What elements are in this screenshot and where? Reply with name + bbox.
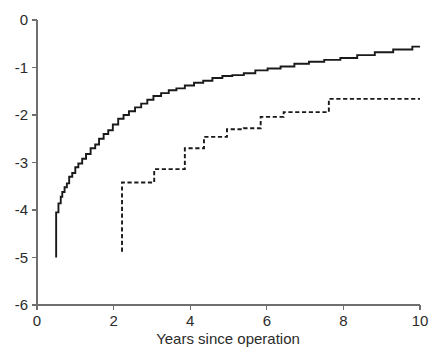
chart-figure: 0-1-2-3-4-5-6 0246810 Years since operat… (0, 0, 441, 353)
x-tick-label: 0 (33, 312, 41, 329)
chart-canvas: 0-1-2-3-4-5-6 0246810 Years since operat… (0, 0, 441, 353)
x-tick-label: 10 (412, 312, 429, 329)
data-series-layer (56, 47, 420, 258)
x-tick-label: 8 (339, 312, 347, 329)
series-solid-curve (56, 47, 420, 258)
x-tick-label: 2 (109, 312, 117, 329)
y-tick-label: -2 (15, 106, 28, 123)
series-dashed-curve (122, 99, 420, 252)
x-tick-label: 4 (186, 312, 194, 329)
y-tick-label: -3 (15, 154, 28, 171)
x-axis-ticks: 0246810 (33, 305, 429, 329)
y-tick-label: -5 (15, 249, 28, 266)
y-axis-ticks: 0-1-2-3-4-5-6 (15, 11, 37, 313)
x-tick-label: 6 (263, 312, 271, 329)
y-tick-label: -6 (15, 296, 28, 313)
axes-group (37, 20, 420, 305)
x-axis-title: Years since operation (156, 330, 300, 347)
y-tick-label: -4 (15, 201, 28, 218)
y-tick-label: -1 (15, 59, 28, 76)
y-tick-label: 0 (20, 11, 28, 28)
